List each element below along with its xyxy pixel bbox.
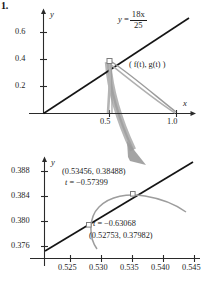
upper-point-parameter-annotation: t = −0.57399 [65,178,108,188]
lower-point-coords-annotation: (0.52753, 0.37982) [89,231,153,241]
zoom-y-axis-label: y [51,158,55,167]
overview-xtick-0: 0.5 [100,118,110,126]
equation-equals: = [124,14,129,24]
zoom-ytick-3: 0.376 [11,242,30,250]
equation-denominator: 25 [130,21,147,31]
zoom-ytick-0: 0.388 [11,167,30,175]
overview-y-axis-label: y [50,10,54,19]
upper-parameter-symbol: t [65,178,67,187]
parametric-curve-label: ( f(t), g(t) ) [129,60,165,70]
overview-x-axis-label: x [183,99,187,108]
equation-numerator: 18x [130,10,147,21]
zoom-xtick-3: 0.540 [151,264,170,272]
upper-parameter-equals: = [69,178,74,187]
equation-lhs: y [118,14,122,24]
zoom-lower-intersection-marker [87,223,92,228]
lower-parameter-value: −0.63068 [104,219,136,228]
zoom-xtick-2: 0.535 [120,264,139,272]
lower-parameter-equals: = [97,219,102,228]
overview-ytick-1: 0.4 [15,55,25,63]
zoom-xtick-0: 0.525 [58,264,77,272]
equation-fraction: 18x25 [130,10,147,30]
line-equation-annotation: y =18x25 [118,10,147,30]
zoom-upper-intersection-marker [131,192,136,197]
zoom-ytick-2: 0.380 [11,217,30,225]
zoom-xtick-4: 0.545 [182,264,201,272]
upper-parameter-value: −0.57399 [76,178,108,187]
overview-intersection-marker [107,59,112,64]
overview-ytick-0: 0.6 [15,28,25,36]
lower-point-parameter-annotation: t = −0.63068 [93,219,136,229]
zoom-xtick-1: 0.530 [89,264,108,272]
overview-ytick-2: 0.2 [15,82,25,90]
overview-xtick-1: 1.0 [167,118,177,126]
upper-point-coords-annotation: (0.53456, 0.38488) [62,167,126,177]
zoom-ytick-1: 0.384 [11,192,30,200]
overview-panel [29,9,196,166]
lower-parameter-symbol: t [93,219,95,228]
